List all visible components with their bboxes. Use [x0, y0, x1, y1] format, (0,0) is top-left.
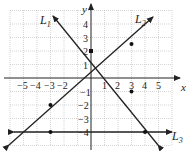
point-l1 [130, 90, 134, 94]
point-l1-intercept [89, 49, 93, 53]
point-l2-a [49, 103, 53, 107]
svg-text:−3: −3 [44, 80, 55, 91]
point-l3-b [143, 130, 147, 134]
svg-text:3: 3 [129, 80, 134, 91]
svg-text:3: 3 [83, 33, 88, 44]
svg-text:5: 5 [156, 80, 161, 91]
svg-text:−2: −2 [78, 100, 89, 111]
y-axis-label: y [81, 3, 87, 15]
svg-text:−1: −1 [80, 87, 91, 98]
svg-text:4: 4 [83, 19, 88, 30]
point-l3-a [49, 130, 53, 134]
svg-text:4: 4 [142, 80, 147, 91]
svg-text:−2: −2 [57, 80, 68, 91]
svg-text:−4: −4 [30, 80, 41, 91]
l3-label: L3 [171, 129, 183, 145]
x-axis-label: x [180, 81, 186, 93]
point-l2-b [130, 42, 134, 46]
coordinate-plane: x y −5 −4 −3 −2 1 2 3 4 5 4 3 2 1 −1 −2 … [0, 0, 190, 155]
l1-label: L1 [39, 13, 51, 29]
svg-text:2: 2 [115, 80, 120, 91]
l2-label: L2 [134, 12, 146, 28]
svg-text:−3: −3 [78, 114, 89, 125]
svg-text:1: 1 [83, 60, 88, 71]
svg-text:−5: −5 [17, 80, 28, 91]
